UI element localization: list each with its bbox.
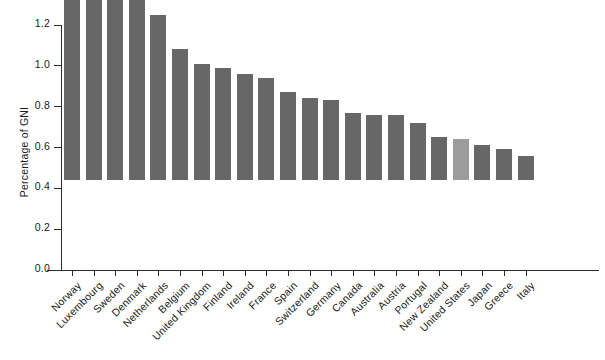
x-tick-mark bbox=[72, 271, 73, 276]
bar-united-kingdom bbox=[194, 64, 210, 180]
x-tick-mark bbox=[374, 271, 375, 276]
bar-austria bbox=[388, 115, 404, 180]
bar-denmark bbox=[129, 0, 145, 180]
bar-new-zealand bbox=[431, 137, 447, 180]
bars-layer bbox=[0, 0, 605, 270]
bar-chart: Percentage of GNI 0.00.20.40.60.81.01.2 … bbox=[0, 0, 605, 360]
x-tick-mark bbox=[310, 271, 311, 276]
bar-norway bbox=[64, 0, 80, 180]
x-tick-mark bbox=[94, 271, 95, 276]
x-tick-mark bbox=[115, 271, 116, 276]
bar-united-states bbox=[453, 139, 469, 180]
bar-switzerland bbox=[302, 98, 318, 180]
bar-canada bbox=[345, 113, 361, 180]
bar-luxembourg bbox=[86, 0, 102, 180]
x-tick-mark bbox=[137, 271, 138, 276]
bar-belgium bbox=[172, 49, 188, 180]
x-tick-mark bbox=[288, 271, 289, 276]
x-tick-mark bbox=[180, 271, 181, 276]
x-tick-mark bbox=[504, 271, 505, 276]
x-tick-mark bbox=[439, 271, 440, 276]
bar-greece bbox=[496, 149, 512, 180]
x-tick-mark bbox=[418, 271, 419, 276]
bar-germany bbox=[323, 100, 339, 180]
x-axis-line bbox=[47, 270, 599, 271]
x-tick-mark bbox=[331, 271, 332, 276]
x-tick-mark bbox=[202, 271, 203, 276]
bar-france bbox=[258, 78, 274, 180]
bar-finland bbox=[215, 68, 231, 180]
x-tick-mark bbox=[223, 271, 224, 276]
x-tick-mark bbox=[396, 271, 397, 276]
x-tick-mark bbox=[353, 271, 354, 276]
bar-ireland bbox=[237, 74, 253, 180]
x-tick-mark bbox=[266, 271, 267, 276]
bar-sweden bbox=[107, 0, 123, 180]
x-tick-mark bbox=[526, 271, 527, 276]
bar-netherlands bbox=[150, 15, 166, 180]
x-tick-mark bbox=[245, 271, 246, 276]
bar-australia bbox=[366, 115, 382, 180]
x-tick-mark bbox=[482, 271, 483, 276]
bar-italy bbox=[518, 156, 534, 181]
bar-spain bbox=[280, 92, 296, 180]
bar-japan bbox=[474, 145, 490, 180]
x-tick-label: Italy bbox=[514, 279, 537, 302]
x-tick-mark bbox=[158, 271, 159, 276]
x-tick-mark bbox=[461, 271, 462, 276]
bar-portugal bbox=[410, 123, 426, 180]
